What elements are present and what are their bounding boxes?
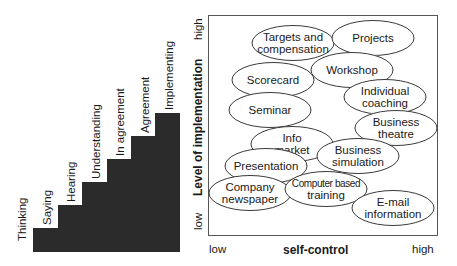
bubble-projects: Projects <box>332 21 414 56</box>
x-axis-low-label: low <box>209 243 226 255</box>
bubble-seminar: Seminar <box>229 93 311 128</box>
bubble-business-simulation: Businesssimulation <box>317 139 399 174</box>
bubble-label: compensation <box>257 43 329 55</box>
y-axis-low-label: low <box>192 213 204 230</box>
bubble-label: Company <box>225 181 274 193</box>
bubble-label: Targets and <box>263 31 323 43</box>
bubble-label: training <box>307 189 345 201</box>
bubble-label: Scorecard <box>247 74 299 86</box>
bubble-e-mail-information: E-mailinformation <box>352 191 434 226</box>
bubble-label: Business <box>335 144 382 156</box>
bubble-label: Seminar <box>249 104 292 116</box>
y-axis-high-label: high <box>192 18 204 40</box>
x-axis-title: self-control <box>283 243 348 257</box>
bubble-label: theatre <box>378 128 414 140</box>
bubble-layer: Targets andcompensationProjectsWorkshopS… <box>0 0 457 266</box>
bubble-label: information <box>365 208 422 220</box>
bubble-label: Presentation <box>234 160 299 172</box>
x-axis-high-label: high <box>412 243 434 255</box>
bubble-label: coaching <box>362 97 408 109</box>
bubble-label: Info <box>282 132 301 144</box>
bubble-label: Projects <box>352 32 394 44</box>
bubble-label: Business <box>373 116 420 128</box>
bubble-label: newspaper <box>222 193 278 205</box>
bubble-label: Individual <box>361 85 410 97</box>
bubble-label: E-mail <box>377 196 410 208</box>
y-axis-title: Level of implementation <box>191 59 205 196</box>
bubble-label: Computer based <box>292 178 360 189</box>
bubble-individual-coaching: Individualcoaching <box>344 80 426 115</box>
bubble-label: Workshop <box>326 64 378 76</box>
bubble-company-newspaper: Companynewspaper <box>209 176 291 211</box>
bubble-targets-and-compensation: Targets andcompensation <box>252 26 334 61</box>
bubble-label: simulation <box>332 156 384 168</box>
